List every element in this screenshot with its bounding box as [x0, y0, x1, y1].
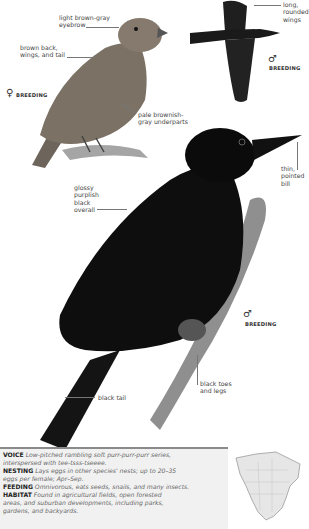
- voice-heading: VOICE: [3, 451, 24, 458]
- range-map: [228, 450, 308, 522]
- nesting-text-1: Lays eggs in other species' nests; up to…: [35, 467, 176, 474]
- perched-male-symbol-icon: ♂: [243, 309, 252, 319]
- habitat-text-2: areas, and suburban developments, includ…: [3, 499, 164, 506]
- overall-leader: [97, 209, 127, 210]
- flight-male-symbol-icon: ♂: [268, 54, 277, 64]
- female-symbol-icon: ♀: [6, 88, 13, 98]
- voice-text-2: interspersed with tee-tsss-tseeee.: [3, 459, 107, 466]
- female-breeding-tag: BREEDING: [16, 92, 47, 98]
- habitat-text-1: Found in agricultural fields, open fores…: [34, 491, 162, 498]
- habitat-text-3: gardens, and backyards.: [3, 507, 78, 514]
- habitat-line-2: areas, and suburban developments, includ…: [3, 499, 164, 507]
- feeding-text-1: Omnivorous, eats seeds, snails, and many…: [35, 483, 189, 490]
- voice-line-2: interspersed with tee-tsss-tseeee.: [3, 459, 107, 467]
- callout-toes: black toes and legs: [200, 380, 232, 395]
- habitat-heading: HABITAT: [3, 491, 32, 498]
- habitat-line-3: gardens, and backyards.: [3, 507, 78, 515]
- callout-wings: long, rounded wings: [283, 1, 309, 23]
- feeding-heading: FEEDING: [3, 483, 33, 490]
- north-america-outline: [236, 452, 300, 520]
- wings-leader: [254, 5, 281, 6]
- back-leader: [67, 57, 95, 58]
- perched-bird-image: [0, 120, 308, 440]
- nesting-heading: NESTING: [3, 467, 33, 474]
- callout-eyebrow: light brown-gray eyebrow: [59, 14, 110, 29]
- perched-male-breeding-tag: BREEDING: [245, 321, 276, 327]
- voice-text-1: Low-pitched rambling soft purr-purr-purr…: [26, 451, 171, 458]
- habitat-line-1: HABITAT Found in agricultural fields, op…: [3, 491, 162, 499]
- voice-line-1: VOICE Low-pitched rambling soft purr-pur…: [3, 451, 171, 459]
- nesting-line-2: eggs per female; Apr–Sep.: [3, 475, 84, 483]
- tail-leader: [65, 397, 95, 398]
- nesting-line-1: NESTING Lays eggs in other species' nest…: [3, 467, 176, 475]
- flight-male-breeding-tag: BREEDING: [269, 65, 300, 71]
- species-info-box: VOICE Low-pitched rambling soft purr-pur…: [0, 447, 228, 529]
- callout-tail: black tail: [98, 394, 126, 401]
- nesting-text-2: eggs per female; Apr–Sep.: [3, 475, 84, 482]
- feeding-line-1: FEEDING Omnivorous, eats seeds, snails, …: [3, 483, 189, 491]
- callout-bill: thin, pointed bill: [281, 165, 305, 187]
- callout-back: brown back, wings, and tail: [20, 44, 65, 59]
- toes-leader: [197, 355, 198, 385]
- callout-overall: glossy purplish black overall: [74, 184, 99, 214]
